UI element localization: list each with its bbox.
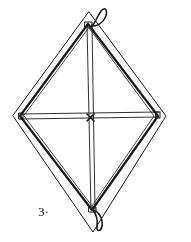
spine-stick-edge [92,24,95,210]
center-joint [87,114,94,121]
kite-diagram [0,0,191,242]
top-loop [92,9,106,26]
cross-spar [20,112,159,114]
step-label: 3· [38,204,49,220]
